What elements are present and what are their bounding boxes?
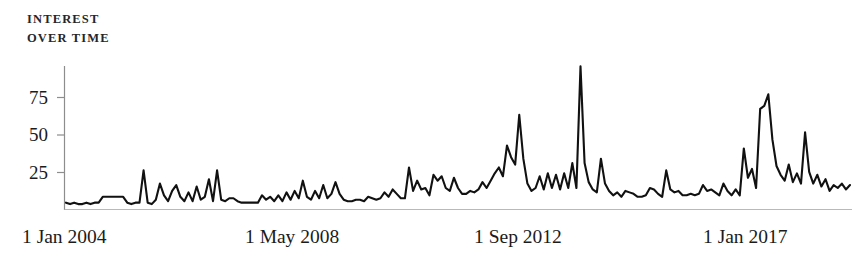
x-tick-label-4: 1 Jan 2017 xyxy=(703,226,788,248)
x-tick-label-2: 1 May 2008 xyxy=(245,226,339,248)
chart-page: INTEREST OVER TIME 75 50 25 1 Jan 2004 1… xyxy=(0,0,861,273)
x-tick-label-3: 1 Sep 2012 xyxy=(474,226,562,248)
x-axis-tick-labels: 1 Jan 2004 1 May 2008 1 Sep 2012 1 Jan 2… xyxy=(0,0,861,273)
x-tick-label-1: 1 Jan 2004 xyxy=(22,226,107,248)
